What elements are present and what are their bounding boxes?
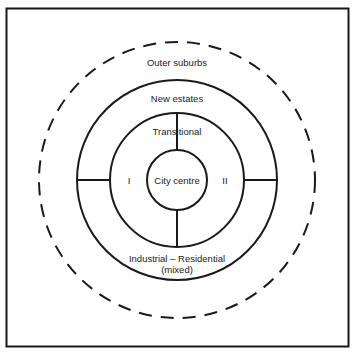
label-outer-suburbs: Outer suburbs <box>127 57 227 68</box>
label-sector-ii: II <box>218 175 232 186</box>
label-new-estates: New estates <box>127 93 227 104</box>
label-mixed: (mixed) <box>127 264 227 275</box>
label-industrial-residential: Industrial – Residential <box>107 253 247 264</box>
label-transitional: Transitional <box>127 126 227 137</box>
label-sector-i: I <box>124 175 134 186</box>
label-city-centre: City centre <box>137 175 217 186</box>
